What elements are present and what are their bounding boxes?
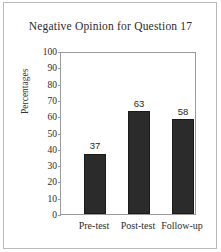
y-axis-title: Percentages xyxy=(20,34,30,114)
y-axis-tick-label: 100 xyxy=(33,47,57,57)
bars-layer: 37 63 58 xyxy=(61,53,195,214)
y-axis-tick-label: 0 xyxy=(33,210,57,220)
plot-area: 37 63 58 xyxy=(60,52,196,215)
bar-value-label: 37 xyxy=(73,140,117,151)
bar-slot: 37 xyxy=(73,53,117,214)
bar-value-label: 63 xyxy=(117,98,161,109)
y-axis-tick-label: 40 xyxy=(33,145,57,155)
x-axis-tick-labels: Pre-test Post-test Follow-up xyxy=(60,220,196,236)
x-axis-tick-label: Follow-up xyxy=(156,220,208,231)
bar-slot: 63 xyxy=(117,53,161,214)
bar[interactable] xyxy=(84,154,106,214)
chart-title: Negative Opinion for Question 17 xyxy=(0,20,221,32)
y-axis-tick-label: 90 xyxy=(33,63,57,73)
bar[interactable] xyxy=(128,111,150,214)
chart-figure: Negative Opinion for Question 17 Percent… xyxy=(0,0,221,252)
y-axis-tick-label: 70 xyxy=(33,96,57,106)
y-axis-tick-label: 80 xyxy=(33,80,57,90)
bar-slot: 58 xyxy=(161,53,205,214)
bar[interactable] xyxy=(172,119,194,214)
y-axis-tick-label: 20 xyxy=(33,177,57,187)
y-axis-tick-label: 30 xyxy=(33,161,57,171)
y-axis-tick-label: 10 xyxy=(33,194,57,204)
y-axis-tick-labels: 100 90 80 70 60 50 40 30 20 10 0 xyxy=(33,47,57,216)
y-axis-tick-label: 50 xyxy=(33,129,57,139)
y-axis-tick-label: 60 xyxy=(33,112,57,122)
bar-value-label: 58 xyxy=(161,106,205,117)
